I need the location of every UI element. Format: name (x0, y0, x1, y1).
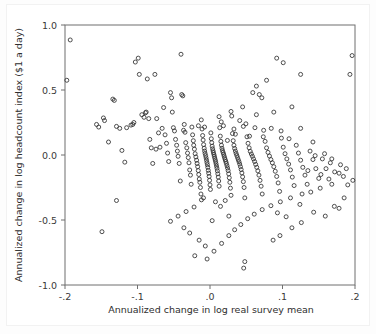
data-point (153, 72, 157, 76)
data-point (263, 139, 267, 143)
data-point (300, 192, 304, 196)
data-point (196, 124, 200, 128)
data-point (294, 143, 298, 147)
data-point (260, 208, 264, 212)
data-points (65, 38, 355, 270)
data-point (339, 163, 343, 167)
data-point (192, 147, 196, 151)
data-point (337, 171, 341, 175)
data-point (155, 117, 159, 121)
data-point (261, 135, 265, 139)
data-point (324, 167, 328, 171)
data-point (318, 186, 322, 190)
x-tick-label: .0 (205, 291, 214, 302)
data-point (157, 131, 161, 135)
data-point (168, 219, 172, 223)
data-point (142, 115, 146, 119)
data-point (254, 84, 258, 88)
data-point (177, 161, 181, 165)
data-point (148, 137, 152, 141)
data-point (182, 226, 186, 230)
data-point (337, 206, 341, 210)
data-point (242, 266, 246, 270)
x-tick-label: .1 (278, 291, 287, 302)
data-point (327, 177, 331, 181)
data-point (279, 136, 283, 140)
data-point (107, 140, 111, 144)
data-point (238, 162, 242, 166)
data-point (272, 165, 276, 169)
data-point (275, 56, 279, 60)
y-axis-title: Annualized change in log headcount index… (13, 28, 24, 282)
data-point (208, 187, 212, 191)
data-point (319, 173, 323, 177)
data-point (163, 133, 167, 137)
data-point (301, 165, 305, 169)
data-point (227, 176, 231, 180)
data-point (136, 56, 140, 60)
data-point (271, 238, 275, 242)
data-point (230, 114, 234, 118)
data-point (196, 169, 200, 173)
data-point (179, 52, 183, 56)
data-point (333, 170, 337, 174)
data-point (290, 105, 294, 109)
data-point (269, 204, 273, 208)
data-point (208, 178, 212, 182)
data-point (288, 196, 292, 200)
data-point (68, 38, 72, 42)
data-point (231, 139, 235, 143)
data-point (184, 141, 188, 145)
data-point (251, 91, 255, 95)
data-point (175, 143, 179, 147)
data-point (346, 183, 350, 187)
data-point (272, 110, 276, 114)
data-point (306, 169, 310, 173)
data-point (243, 196, 247, 200)
data-point (188, 168, 192, 172)
data-point (311, 158, 315, 162)
data-point (199, 118, 203, 122)
data-point (252, 212, 256, 216)
data-point (192, 205, 196, 209)
data-point (203, 244, 207, 248)
data-point (197, 173, 201, 177)
data-point (303, 173, 307, 177)
data-point (168, 91, 172, 95)
data-point (233, 228, 237, 232)
data-point (120, 148, 124, 152)
data-point (290, 175, 294, 179)
data-point (317, 176, 321, 180)
data-point (314, 167, 318, 171)
data-point (299, 158, 303, 162)
data-point (299, 221, 303, 225)
data-point (160, 126, 164, 130)
x-axis-title: Annualized change in log real survey mea… (108, 304, 314, 315)
data-point (259, 184, 263, 188)
data-point (278, 200, 282, 204)
y-tick-label: 1.0 (42, 20, 57, 31)
data-point (241, 180, 245, 184)
data-point (123, 160, 127, 164)
data-point (281, 61, 285, 65)
data-point (299, 126, 303, 130)
data-point (241, 124, 245, 128)
data-point (287, 137, 291, 141)
data-point (151, 161, 155, 165)
data-point (100, 230, 104, 234)
data-point (191, 139, 195, 143)
data-point (246, 217, 250, 221)
data-point (292, 184, 296, 188)
data-point (176, 214, 180, 218)
data-point (242, 186, 246, 190)
data-point (190, 125, 194, 129)
data-point (241, 105, 245, 109)
data-point (344, 167, 348, 171)
data-point (201, 138, 205, 142)
data-point (241, 175, 245, 179)
data-point (281, 145, 285, 149)
data-point (332, 204, 336, 208)
data-point (197, 238, 201, 242)
data-point (265, 146, 269, 150)
data-point (147, 117, 151, 121)
